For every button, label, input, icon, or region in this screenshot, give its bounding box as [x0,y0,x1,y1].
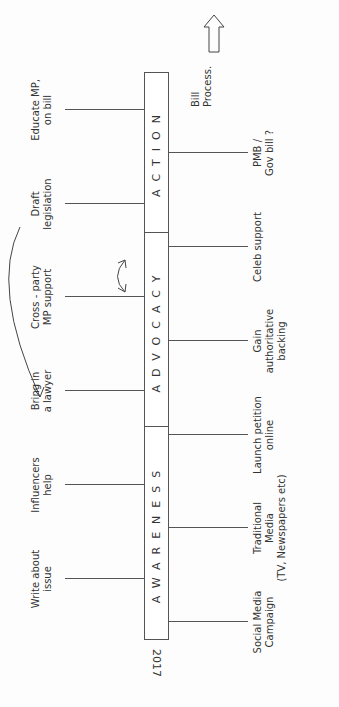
tick-lawyer [65,390,144,391]
item-draft-legislation: Draftlegislation [30,178,54,229]
item-pmb-gov-bill: PMB /Gov bill ? [252,130,276,176]
tick-celeb [169,246,248,247]
item-influencers-help: Influencershelp [30,457,54,512]
tick-influencers [65,484,144,485]
timeline-diagram: AWARENESS ADVOCACY ACTION 2017 Write abo… [0,0,339,707]
tick-educate-mp [65,109,144,110]
item-traditional-media: TraditionalMedia(TV, Newspapers etc) [252,474,288,581]
item-cross-party-support: Cross - partyMP support [30,265,54,329]
timeline-bar: AWARENESS ADVOCACY ACTION [144,72,169,640]
item-authoritative-backing: Gainauthoritativebacking [252,309,288,374]
phase-awareness: AWARENESS [145,427,168,639]
tick-social-media [169,621,248,622]
double-arrow-icon [118,260,126,292]
tick-authoritative [169,340,248,341]
phase-advocacy: ADVOCACY [145,233,168,427]
tick-cross-party [65,296,144,297]
tick-petition [169,434,248,435]
item-celeb-support: Celeb support [252,212,264,282]
item-launch-petition: Launch petitiononline [252,396,276,474]
tick-draft-legislation [65,203,144,204]
tick-pmb [169,152,248,153]
tick-write-about-issue [65,578,144,579]
item-bring-in-lawyer: Bring ina lawyer [30,370,54,413]
item-write-about-issue: Write aboutissue [30,550,54,608]
tick-traditional-media [169,527,248,528]
item-educate-mp: Educate MP,on bill [30,79,54,141]
bill-process-note: BillProcess. [190,66,214,107]
year-label: 2017 [150,649,163,677]
phase-action: ACTION [145,71,168,233]
item-social-media-campaign: Social MediaCampaign [252,591,276,654]
right-arrow-icon [204,15,224,52]
